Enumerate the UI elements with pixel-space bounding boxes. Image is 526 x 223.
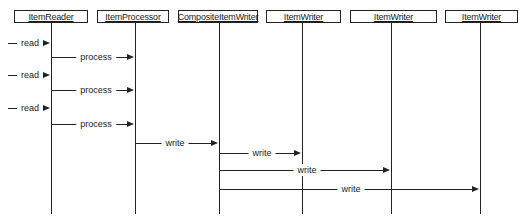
message-read-itemReader: read (0, 108, 526, 109)
message-label: write (337, 183, 364, 195)
arrowhead-icon (383, 167, 390, 173)
message-read-itemReader: read (0, 43, 526, 44)
lifeline-compositeItemWriter (219, 23, 220, 214)
participant-itemWriter1: ItemWriter (266, 10, 341, 23)
participant-compositeItemWriter: CompositeItemWriter (178, 10, 258, 23)
arrowhead-icon (43, 40, 50, 46)
arrowhead-icon (127, 87, 134, 93)
message-label: read (17, 69, 43, 81)
message-label: read (17, 102, 43, 114)
message-read-itemReader: read (0, 75, 526, 76)
message-process-itemProcessor: process (0, 124, 526, 125)
arrowhead-icon (43, 105, 50, 111)
lifeline-itemReader (51, 23, 52, 214)
arrowhead-icon (294, 150, 301, 156)
message-process-itemProcessor: process (0, 57, 526, 58)
message-label: write (248, 147, 275, 159)
arrowhead-icon (127, 54, 134, 60)
lifeline-itemProcessor (135, 23, 136, 214)
message-label: process (76, 118, 116, 130)
message-label: write (161, 137, 188, 149)
participant-itemWriter3: ItemWriter (445, 10, 518, 23)
message-label: write (293, 164, 320, 176)
arrowhead-icon (127, 121, 134, 127)
message-write-itemWriter2: write (0, 170, 526, 171)
lifeline-itemWriter1 (302, 23, 303, 214)
message-write-itemWriter1: write (0, 153, 526, 154)
arrowhead-icon (472, 186, 479, 192)
participant-itemReader: ItemReader (14, 10, 88, 23)
lifeline-itemWriter3 (480, 23, 481, 214)
lifeline-itemWriter2 (391, 23, 392, 214)
message-write-itemWriter3: write (0, 189, 526, 190)
message-process-itemProcessor: process (0, 90, 526, 91)
arrowhead-icon (211, 140, 218, 146)
participant-itemProcessor: ItemProcessor (97, 10, 169, 23)
message-label: read (17, 37, 43, 49)
message-write-compositeItemWriter: write (0, 143, 526, 144)
message-label: process (76, 51, 116, 63)
participant-itemWriter2: ItemWriter (350, 10, 437, 23)
arrowhead-icon (43, 72, 50, 78)
message-label: process (76, 84, 116, 96)
